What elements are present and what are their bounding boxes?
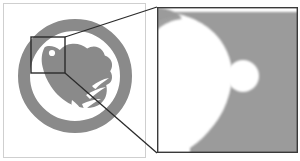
figure-canvas [0,0,300,161]
magnified-detail-figure [0,0,300,161]
magnified-bird-eye [227,60,259,92]
bird-eye [49,50,55,56]
magnified-detail-panel [155,8,300,156]
